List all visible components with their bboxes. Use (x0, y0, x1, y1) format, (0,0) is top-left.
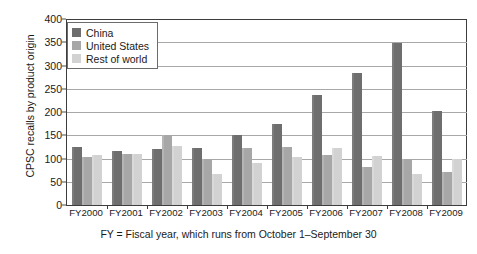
bar (282, 147, 292, 205)
bar (72, 147, 82, 205)
bar (212, 174, 222, 205)
y-axis-tick-label: 400 (44, 13, 62, 25)
bar (162, 135, 172, 205)
bar (312, 95, 322, 205)
bar (272, 124, 282, 205)
bar-group (192, 19, 222, 205)
x-axis-tick-label: FY2004 (229, 207, 263, 218)
y-axis-tick-label: 350 (44, 36, 62, 48)
bar (122, 154, 132, 205)
bar-group (392, 19, 422, 205)
bar (402, 159, 412, 206)
bar (292, 157, 302, 205)
bar (232, 135, 242, 205)
bar (152, 149, 162, 205)
chart-legend: ChinaUnited StatesRest of world (67, 22, 158, 69)
y-axis-tick-labels: 050100150200250300350400 (32, 0, 66, 254)
bar-group (232, 19, 262, 205)
bar (112, 151, 122, 205)
chart-figure: CPSC recalls by product origin 050100150… (0, 0, 477, 254)
bar (442, 172, 452, 205)
bar (412, 174, 422, 205)
bar (332, 148, 342, 205)
x-axis-tick-label: FY2008 (389, 207, 423, 218)
legend-swatch-icon (72, 41, 81, 50)
bar (432, 111, 442, 205)
bar (362, 167, 372, 205)
x-axis-tick-label: FY2001 (109, 207, 143, 218)
legend-label: Rest of world (86, 53, 147, 65)
y-axis-tick-label: 200 (44, 106, 62, 118)
bar-group (312, 19, 342, 205)
legend-item: United States (72, 39, 149, 52)
bar (352, 73, 362, 205)
figure-caption: FY = Fiscal year, which runs from Octobe… (0, 228, 477, 240)
legend-label: China (86, 27, 113, 39)
x-axis-tick-label: FY2006 (309, 207, 343, 218)
bar (202, 159, 212, 206)
y-axis-tick-label: 100 (44, 153, 62, 165)
x-axis-tick-label: FY2009 (429, 207, 463, 218)
bar (92, 155, 102, 205)
bar (322, 155, 332, 205)
bar (132, 154, 142, 205)
y-axis-tick-label: 300 (44, 60, 62, 72)
x-axis-tick-label: FY2003 (189, 207, 223, 218)
bar (192, 148, 202, 205)
y-axis-tick-label: 150 (44, 129, 62, 141)
legend-label: United States (86, 40, 149, 52)
x-axis-tick-labels: FY2000FY2001FY2002FY2003FY2004FY2005FY20… (66, 207, 466, 223)
legend-swatch-icon (72, 28, 81, 37)
x-axis-tick-label: FY2005 (269, 207, 303, 218)
legend-item: China (72, 26, 149, 39)
bar-group (432, 19, 462, 205)
x-axis-tick-label: FY2007 (349, 207, 383, 218)
legend-swatch-icon (72, 54, 81, 63)
y-axis-tick-label: 50 (50, 176, 62, 188)
bar (452, 159, 462, 206)
bar (82, 157, 92, 205)
bar (372, 156, 382, 205)
bar (242, 148, 252, 205)
legend-item: Rest of world (72, 52, 149, 65)
y-axis-tick-label: 250 (44, 83, 62, 95)
x-axis-tick-label: FY2002 (149, 207, 183, 218)
bar (252, 163, 262, 205)
bar-group (272, 19, 302, 205)
bar (392, 43, 402, 205)
bar (172, 146, 182, 205)
x-axis-tick-label: FY2000 (69, 207, 103, 218)
bar-group (352, 19, 382, 205)
